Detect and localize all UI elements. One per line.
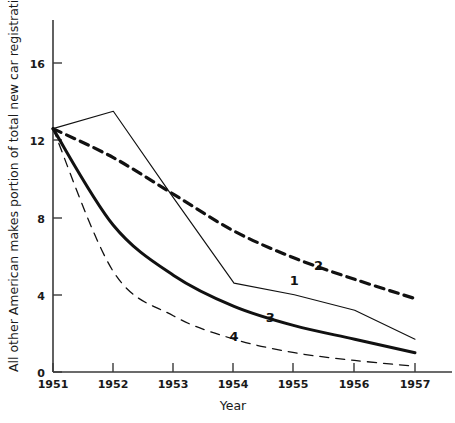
series-line-2: [53, 129, 415, 299]
x-tick-label-1954: 1954: [218, 378, 249, 391]
series-label-4: 4: [229, 329, 238, 344]
line-chart-plot: All other American makes portion of tota…: [0, 0, 455, 423]
x-axis-ticks: 1951 1952 1953 1954 1955 1956 1957: [38, 363, 431, 391]
x-tick-label-1953: 1953: [158, 378, 189, 391]
x-tick-label-1951: 1951: [38, 378, 69, 391]
y-tick-label-4: 4: [37, 290, 45, 303]
x-axis-title: Year: [219, 398, 247, 413]
y-axis-ticks: 0 4 8 12 16: [30, 58, 62, 380]
series-label-1: 1: [290, 273, 299, 288]
x-tick-label-1957: 1957: [400, 378, 431, 391]
x-tick-label-1952: 1952: [98, 378, 129, 391]
series-label-2: 2: [314, 258, 323, 273]
chart-container: All other American makes portion of tota…: [0, 0, 455, 423]
series-label-3: 3: [266, 310, 275, 325]
y-tick-label-12: 12: [30, 135, 45, 148]
y-tick-label-8: 8: [37, 213, 45, 226]
x-tick-label-1955: 1955: [278, 378, 309, 391]
series-line-3: [53, 129, 415, 353]
y-axis-title: All other American makes portion of tota…: [6, 0, 21, 372]
x-tick-label-1956: 1956: [339, 378, 370, 391]
y-tick-label-16: 16: [30, 58, 46, 71]
